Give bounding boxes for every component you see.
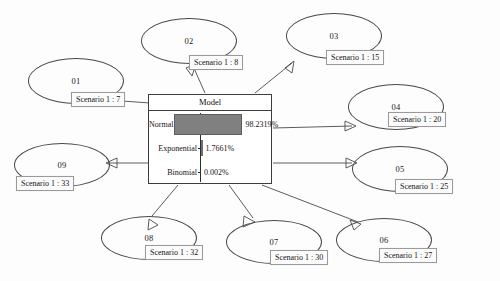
- node-04-label: 04: [349, 102, 443, 112]
- edge-to-08: [152, 185, 178, 216]
- bar-category-binomial: Binomial: [149, 168, 198, 177]
- scenario-label-01[interactable]: Scenario 1 : 7: [71, 92, 125, 107]
- bar-value-normal: 98.2319%: [245, 120, 278, 129]
- bar-category-exponential: Exponential: [149, 144, 198, 153]
- edge-to-06: [262, 185, 358, 222]
- edge-to-03: [255, 63, 292, 93]
- scenario-label-05[interactable]: Scenario 1 : 25: [395, 179, 453, 194]
- bar-exponential: [201, 140, 203, 156]
- bar-value-exponential: 1.7661%: [206, 144, 235, 153]
- scenario-label-06[interactable]: Scenario 1 : 27: [379, 248, 437, 263]
- model-panel-title: Model: [149, 95, 271, 111]
- bar-normal: [174, 114, 242, 135]
- edge-to-02: [193, 66, 205, 93]
- node-02-label: 02: [142, 36, 236, 46]
- model-panel[interactable]: Model Normal 98.2319% Exponential 1.7661…: [148, 94, 272, 184]
- node-03-label: 03: [287, 31, 381, 41]
- bar-row-normal: Normal 98.2319%: [149, 113, 271, 135]
- edge-to-04: [273, 126, 352, 128]
- bar-value-binomial: 0.002%: [204, 168, 229, 177]
- scenario-label-08[interactable]: Scenario 1 : 32: [145, 245, 203, 260]
- node-06-label: 06: [337, 235, 431, 245]
- edge-to-01: [122, 101, 150, 103]
- model-bar-chart: Normal 98.2319% Exponential 1.7661% Bino…: [149, 111, 271, 184]
- node-09-label: 09: [15, 160, 109, 170]
- edge-to-07: [229, 185, 253, 218]
- scenario-label-04[interactable]: Scenario 1 : 20: [388, 112, 446, 127]
- scenario-label-07[interactable]: Scenario 1 : 30: [270, 250, 328, 265]
- node-07-label: 07: [227, 237, 321, 247]
- node-05-label: 05: [353, 164, 447, 174]
- arrowhead-03: [285, 61, 294, 73]
- bar-category-normal: Normal: [149, 120, 174, 129]
- scenario-label-02[interactable]: Scenario 1 : 8: [189, 55, 243, 70]
- scenario-label-03[interactable]: Scenario 1 : 15: [326, 50, 384, 65]
- node-08-label: 08: [102, 233, 196, 243]
- diagram-canvas: 01 Scenario 1 : 7 02 Scenario 1 : 8 03 S…: [0, 0, 500, 281]
- bar-row-binomial: Binomial 0.002%: [149, 161, 271, 183]
- scenario-label-09[interactable]: Scenario 1 : 33: [16, 176, 74, 191]
- bar-row-exponential: Exponential 1.7661%: [149, 137, 271, 159]
- node-01-label: 01: [29, 76, 123, 86]
